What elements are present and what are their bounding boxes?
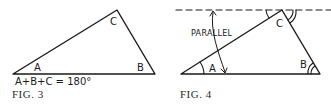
angle-label-b: B [137, 62, 144, 73]
figure-caption-3: FIG. 3 [12, 88, 44, 100]
angle-label-a: A [209, 63, 216, 74]
angle-arc-a [200, 62, 204, 74]
angle-label-c: C [276, 18, 283, 29]
angle-label-a: A [34, 62, 41, 73]
figure-caption-4: FIG. 4 [180, 88, 212, 100]
figure-3: A B C A+B+C = 180° FIG. 3 [12, 10, 155, 100]
triangle-angle-diagrams: A B C A+B+C = 180° FIG. 3 A B C PARALLEL… [0, 0, 331, 106]
angle-label-c: C [110, 16, 117, 27]
alternate-angle-arc-b-outer [288, 10, 293, 20]
angle-label-b: B [300, 59, 307, 70]
alternate-angle-arc-a [266, 10, 269, 18]
angle-arc-b-inner [311, 66, 315, 74]
angle-sum-equation: A+B+C = 180° [15, 76, 91, 87]
figure-4: A B C PARALLEL FIG. 4 [176, 10, 331, 100]
parallel-label: PARALLEL [191, 29, 233, 38]
